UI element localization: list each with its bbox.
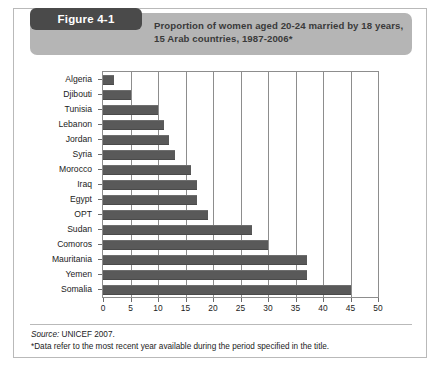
bar-fill xyxy=(103,255,307,265)
bar xyxy=(103,120,164,130)
chart-title-line-1: Proportion of women aged 20-24 married b… xyxy=(154,19,404,32)
bar xyxy=(103,240,268,250)
bars-layer xyxy=(103,72,378,297)
x-axis-label-30: 30 xyxy=(263,303,272,313)
bar-fill xyxy=(103,225,252,235)
x-axis-tick-30 xyxy=(268,298,269,302)
y-axis-label: Egypt xyxy=(70,194,92,204)
x-axis-labels: 05101520253035404550 xyxy=(102,303,379,317)
x-axis-tick-25 xyxy=(241,298,242,302)
bar xyxy=(103,285,351,295)
x-axis-tick-15 xyxy=(186,298,187,302)
figure-header-band: Figure 4-1 Proportion of women aged 20-2… xyxy=(30,13,412,55)
y-axis-label: Syria xyxy=(72,149,92,159)
x-axis-label-35: 35 xyxy=(291,303,300,313)
bar-fill xyxy=(103,270,307,280)
bar-fill xyxy=(103,210,208,220)
x-axis-label-40: 40 xyxy=(318,303,327,313)
bar-fill xyxy=(103,75,114,85)
y-axis-label: Iraq xyxy=(77,179,92,189)
source-value: UNICEF 2007. xyxy=(59,330,115,339)
bar xyxy=(103,195,197,205)
x-axis-tick-20 xyxy=(213,298,214,302)
x-axis-label-45: 45 xyxy=(346,303,355,313)
y-axis-label: Algeria xyxy=(65,74,92,84)
bar xyxy=(103,255,307,265)
figure-container: Figure 4-1 Proportion of women aged 20-2… xyxy=(13,8,427,358)
source-line: Source: UNICEF 2007. xyxy=(31,329,417,341)
x-axis-tick-40 xyxy=(323,298,324,302)
x-axis-tick-5 xyxy=(131,298,132,302)
figure-footnotes: Source: UNICEF 2007. *Data refer to the … xyxy=(31,329,417,352)
bar-fill xyxy=(103,180,197,190)
bar xyxy=(103,90,131,100)
bar xyxy=(103,135,169,145)
figure-number-tag: Figure 4-1 xyxy=(30,8,142,30)
y-axis-label: Sudan xyxy=(67,224,92,234)
bar xyxy=(103,75,114,85)
chart-title: Proportion of women aged 20-24 married b… xyxy=(154,19,404,45)
footnote-asterisk: *Data refer to the most recent year avai… xyxy=(31,341,417,353)
y-axis-label: Somalia xyxy=(61,284,92,294)
y-axis-label: Djibouti xyxy=(63,89,92,99)
bar-fill xyxy=(103,135,169,145)
y-axis-label: Tunisia xyxy=(65,104,92,114)
bar xyxy=(103,225,252,235)
y-axis-labels: AlgeriaDjiboutiTunisiaLebanonJordanSyria… xyxy=(14,71,98,298)
y-axis-label: Lebanon xyxy=(59,119,92,129)
x-axis-tick-50 xyxy=(378,298,379,302)
y-axis-label: Mauritania xyxy=(52,254,92,264)
x-axis-label-20: 20 xyxy=(208,303,217,313)
bar xyxy=(103,165,191,175)
y-axis-label: Comoros xyxy=(57,239,92,249)
x-axis-label-5: 5 xyxy=(128,303,133,313)
bar-fill xyxy=(103,195,197,205)
bar-fill xyxy=(103,150,175,160)
x-axis-label-25: 25 xyxy=(236,303,245,313)
x-axis-tick-35 xyxy=(296,298,297,302)
x-axis-tick-45 xyxy=(351,298,352,302)
x-axis-tick-10 xyxy=(158,298,159,302)
bar xyxy=(103,270,307,280)
bar-fill xyxy=(103,90,131,100)
x-axis-label-0: 0 xyxy=(101,303,106,313)
chart-title-line-2: 15 Arab countries, 1987-2006* xyxy=(154,32,404,45)
bar-fill xyxy=(103,120,164,130)
bar-fill xyxy=(103,240,268,250)
x-axis-label-50: 50 xyxy=(373,303,382,313)
bar-fill xyxy=(103,165,191,175)
y-axis-label: Jordan xyxy=(66,134,92,144)
x-axis-tick-0 xyxy=(103,298,104,302)
y-axis-label: Morocco xyxy=(59,164,92,174)
bar-fill xyxy=(103,105,158,115)
bar-fill xyxy=(103,285,351,295)
x-axis-label-15: 15 xyxy=(181,303,190,313)
gridline-50 xyxy=(378,72,379,297)
y-axis-label: Yemen xyxy=(66,269,92,279)
bar xyxy=(103,210,208,220)
plot-area xyxy=(102,71,379,298)
source-label: Source: xyxy=(31,330,59,339)
y-axis-label: OPT xyxy=(74,209,92,219)
bar xyxy=(103,150,175,160)
x-axis-label-10: 10 xyxy=(153,303,162,313)
bar xyxy=(103,180,197,190)
footer-divider xyxy=(30,324,412,325)
bar xyxy=(103,105,158,115)
